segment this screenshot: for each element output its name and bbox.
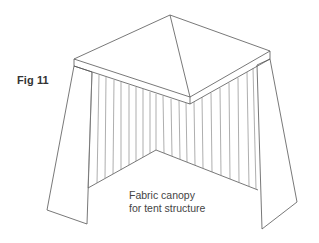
caption-line-1: Fabric canopy bbox=[129, 189, 205, 202]
caption-line-2: for tent structure bbox=[129, 202, 205, 215]
left-wall-flap bbox=[47, 66, 92, 224]
figure-caption: Fabric canopy for tent structure bbox=[129, 189, 205, 215]
figure-label: Fig 11 bbox=[17, 74, 49, 86]
roof bbox=[74, 15, 270, 97]
right-wall-flap bbox=[257, 59, 297, 229]
valance-band bbox=[74, 51, 270, 104]
back-wall-floor-edge bbox=[88, 150, 258, 190]
